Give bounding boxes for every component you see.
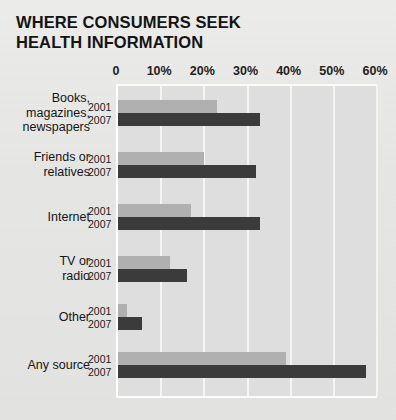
category-label-line: TV or xyxy=(0,254,90,269)
year-label-2001: 2001 xyxy=(88,205,112,217)
category-label-other: Other xyxy=(0,310,90,325)
bar-2007-tv-or-radio xyxy=(118,269,187,282)
category-label-line: Books, xyxy=(0,91,90,106)
year-label-2001: 2001 xyxy=(88,353,112,365)
series-year-labels: 2001200720012007200120072001200720012007… xyxy=(88,0,116,420)
bars-layer xyxy=(118,86,377,396)
bar-2001-internet xyxy=(118,204,191,217)
year-label-2007: 2007 xyxy=(88,114,112,126)
category-label-line: newspapers xyxy=(0,120,90,135)
year-label-2007: 2007 xyxy=(88,318,112,330)
bar-2001-tv-or-radio xyxy=(118,256,170,269)
year-label-2001: 2001 xyxy=(88,153,112,165)
bar-2001-other xyxy=(118,304,127,317)
year-label-2007: 2007 xyxy=(88,166,112,178)
x-tick-label-50: 50% xyxy=(319,64,344,78)
bar-2007-any-source xyxy=(118,365,366,378)
year-label-2001: 2001 xyxy=(88,305,112,317)
x-tick-label-40: 40% xyxy=(276,64,301,78)
category-label-line: Internet xyxy=(0,210,90,225)
bar-2007-other xyxy=(118,317,142,330)
chart-figure: WHERE CONSUMERS SEEK HEALTH INFORMATION … xyxy=(0,0,396,420)
x-tick-label-10: 10% xyxy=(147,64,172,78)
x-tick-label-30: 30% xyxy=(233,64,258,78)
category-label-any-source: Any source xyxy=(0,358,90,373)
category-label-internet: Internet xyxy=(0,210,90,225)
year-label-2007: 2007 xyxy=(88,366,112,378)
year-label-2001: 2001 xyxy=(88,257,112,269)
x-tick-label-60: 60% xyxy=(362,64,387,78)
category-label-line: magazines, xyxy=(0,106,90,121)
year-label-2007: 2007 xyxy=(88,270,112,282)
bar-2001-books-magazines-newspapers xyxy=(118,100,217,113)
category-label-tv-or-radio: TV orradio xyxy=(0,254,90,283)
category-label-friends-or-relatives: Friends orrelatives xyxy=(0,150,90,179)
category-label-books-magazines-newspapers: Books,magazines,newspapers xyxy=(0,91,90,135)
bar-2001-friends-or-relatives xyxy=(118,152,204,165)
category-label-line: Any source xyxy=(0,358,90,373)
year-label-2001: 2001 xyxy=(88,101,112,113)
category-label-line: Other xyxy=(0,310,90,325)
category-label-line: radio xyxy=(0,269,90,284)
bar-2007-friends-or-relatives xyxy=(118,165,256,178)
x-tick-label-20: 20% xyxy=(190,64,215,78)
plot-bottom-rule xyxy=(116,396,377,398)
category-label-line: Friends or xyxy=(0,150,90,165)
plot-area xyxy=(116,86,377,396)
bar-2001-any-source xyxy=(118,352,286,365)
category-label-line: relatives xyxy=(0,165,90,180)
bar-2007-internet xyxy=(118,217,260,230)
year-label-2007: 2007 xyxy=(88,218,112,230)
bar-2007-books-magazines-newspapers xyxy=(118,113,260,126)
